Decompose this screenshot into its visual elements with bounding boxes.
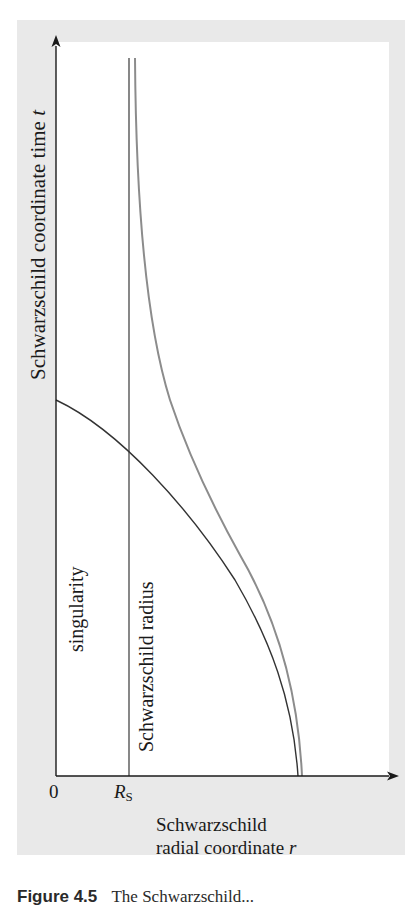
y-axis-label: Schwarzschild coordinate time t — [28, 110, 49, 380]
x-tick-rs-symbol: R — [114, 781, 126, 802]
infalling-trajectory-curve — [56, 400, 298, 776]
x-axis-label-line2: radial coordinate — [156, 837, 284, 858]
figure-caption-text: The Schwarzschild... — [111, 887, 254, 906]
x-axis-variable: r — [289, 837, 296, 858]
x-axis-label-line1: Schwarzschild — [156, 814, 267, 835]
x-tick-rs-subscript: S — [126, 789, 133, 804]
x-tick-schwarzschild-radius: RS — [114, 782, 133, 803]
y-axis-label-text: Schwarzschild coordinate time — [26, 121, 50, 380]
schwarzschild-radius-label: Schwarzschild radius — [136, 581, 156, 752]
y-axis-variable: t — [26, 110, 50, 116]
figure-number: Figure 4.5 — [17, 887, 97, 906]
x-axis-label: Schwarzschild radial coordinate r — [156, 813, 396, 859]
y-axis-arrow-icon — [52, 35, 61, 47]
x-tick-origin: 0 — [49, 782, 59, 801]
singularity-label: singularity — [66, 566, 86, 652]
figure-caption: Figure 4.5 The Schwarzschild... — [17, 887, 254, 907]
